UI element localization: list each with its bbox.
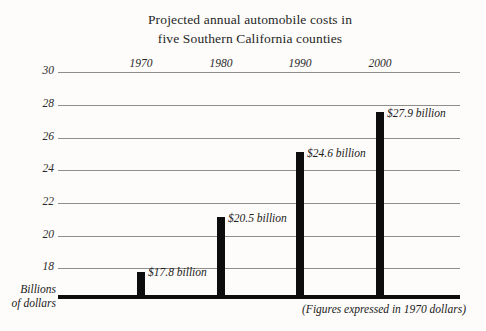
x-axis-tick-2000: 2000: [345, 57, 415, 69]
gridline-30: [58, 72, 460, 73]
y-axis-tick-26: 26: [28, 130, 54, 142]
y-axis-tick-20: 20: [28, 228, 54, 240]
gridline-22: [58, 203, 460, 204]
chart-footnote: (Figures expressed in 1970 dollars): [302, 303, 466, 315]
y-axis-tick-22: 22: [28, 195, 54, 207]
bar-1970: [137, 272, 145, 295]
bar-2000: [376, 112, 384, 295]
x-axis-baseline: [58, 295, 460, 299]
bar-1980: [217, 217, 225, 295]
x-axis-tick-1990: 1990: [265, 57, 335, 69]
gridline-18: [58, 268, 460, 269]
y-axis-label: Billions of dollars: [2, 283, 56, 310]
x-axis-tick-1980: 1980: [186, 57, 256, 69]
y-axis-tick-24: 24: [28, 162, 54, 174]
plot-area: 30 28 26 24 22 20 18 1970 1980 1990 2000…: [0, 0, 486, 331]
y-axis-label-line-2: of dollars: [2, 297, 56, 311]
chart-figure: Projected annual automobile costs in fiv…: [0, 0, 486, 331]
gridline-20: [58, 236, 460, 237]
y-axis-tick-30: 30: [28, 64, 54, 76]
gridline-24: [58, 170, 460, 171]
bar-1990: [296, 152, 304, 295]
x-axis-tick-1970: 1970: [106, 57, 176, 69]
gridline-28: [58, 105, 460, 106]
bar-label-1980: $20.5 billion: [228, 212, 287, 224]
y-axis-tick-18: 18: [28, 260, 54, 272]
bar-label-2000: $27.9 billion: [387, 107, 446, 119]
bar-label-1970: $17.8 billion: [148, 266, 207, 278]
gridline-26: [58, 138, 460, 139]
y-axis-label-line-1: Billions: [2, 283, 56, 297]
y-axis-tick-28: 28: [28, 97, 54, 109]
bar-label-1990: $24.6 billion: [307, 147, 366, 159]
